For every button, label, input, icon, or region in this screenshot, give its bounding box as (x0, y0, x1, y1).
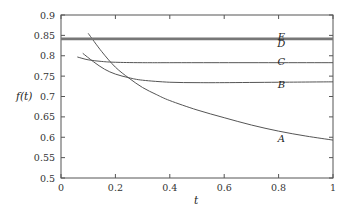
x-tick-label: 1 (330, 182, 336, 193)
y-axis-label: f(t) (15, 90, 32, 102)
series-b-label: B (277, 79, 285, 90)
y-tick-label: 0.5 (40, 173, 55, 184)
data-series: ABCDE (61, 31, 333, 144)
series-e-label: E (277, 31, 286, 42)
y-tick-label: 0.7 (40, 91, 55, 102)
series-a-line (88, 33, 333, 140)
series-c-label: C (277, 56, 285, 67)
x-tick-label: 0.2 (108, 182, 123, 193)
y-tick-label: 0.75 (34, 71, 55, 82)
x-tick-label: 0.4 (162, 182, 177, 193)
y-tick-label: 0.65 (34, 111, 55, 122)
x-axis-label: t (194, 194, 199, 206)
axis-ticks: 00.20.40.60.810.50.550.60.650.70.750.80.… (34, 10, 336, 194)
line-chart: 00.20.40.60.810.50.550.60.650.70.750.80.… (0, 0, 351, 214)
x-tick-label: 0.8 (271, 182, 286, 193)
series-b-line (83, 53, 333, 82)
y-tick-label: 0.6 (40, 132, 55, 143)
x-tick-label: 0 (58, 182, 64, 193)
y-tick-label: 0.8 (40, 50, 55, 61)
series-a-label: A (277, 133, 285, 144)
y-tick-label: 0.85 (34, 30, 55, 41)
y-tick-label: 0.55 (34, 152, 55, 163)
series-c-line (77, 57, 333, 63)
y-tick-label: 0.9 (40, 10, 55, 21)
x-tick-label: 0.6 (217, 182, 232, 193)
